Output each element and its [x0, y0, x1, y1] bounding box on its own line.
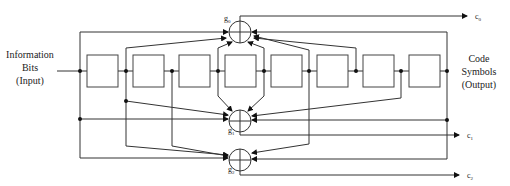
junction-dot-icon	[78, 69, 82, 73]
output-label: Code Symbols (Output)	[461, 53, 496, 91]
shift-register-4	[225, 55, 256, 87]
shift-register-1	[87, 55, 118, 87]
adder-g0-label: g0	[224, 14, 231, 24]
junction-dot-icon	[445, 69, 449, 73]
shift-register-3	[179, 55, 210, 87]
shift-register-2	[133, 55, 164, 87]
junction-dot-icon	[262, 69, 266, 73]
adder-g2: g2	[228, 149, 251, 175]
adder-g1: g1	[228, 110, 251, 136]
shift-register-8	[409, 55, 440, 87]
output-c1-wire	[240, 132, 459, 135]
junction-dot-icon	[445, 118, 449, 122]
input-label-line-2: Bits	[22, 62, 38, 73]
tap-r1-to-g1	[126, 101, 228, 115]
junction-dot-icon	[354, 69, 358, 73]
junction-dot-icon	[399, 69, 403, 73]
input-label: Information Bits (Input)	[6, 49, 54, 87]
junction-dot-icon	[307, 69, 311, 73]
junction-dot-icon	[216, 69, 220, 73]
output-label-line-2: Symbols	[461, 66, 496, 77]
output-c0-wire	[240, 16, 467, 21]
shift-register-5	[271, 55, 302, 87]
junction-dot-icon	[124, 99, 128, 103]
output-c2-wire	[240, 171, 459, 175]
shift-register-chain	[87, 55, 447, 87]
output-label-line-3: (Output)	[462, 79, 496, 91]
shift-register-7	[363, 55, 394, 87]
input-label-line-1: Information	[6, 49, 54, 60]
wire-out-to-g2	[252, 120, 447, 159]
output-c1-label: c1	[467, 131, 474, 141]
shift-register-6	[317, 55, 348, 87]
convolutional-encoder-diagram: Information Bits (Input) Code Symbols (O…	[0, 0, 510, 186]
tap-wires	[126, 36, 401, 156]
junction-dot-icon	[170, 69, 174, 73]
adder-g0: g0	[224, 14, 251, 43]
junction-dot-icon	[78, 117, 82, 121]
frame-wires	[57, 32, 447, 159]
input-label-line-3: (Input)	[16, 75, 44, 87]
output-label-line-1: Code	[468, 53, 490, 64]
junction-dot-icon	[124, 69, 128, 73]
output-c0-label: c0	[475, 12, 482, 22]
output-c2-label: c2	[467, 171, 474, 181]
